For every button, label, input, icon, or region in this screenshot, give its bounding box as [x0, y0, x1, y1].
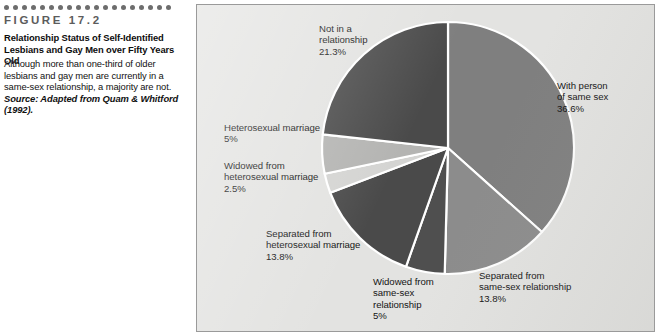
rule-dot — [85, 5, 90, 10]
chart-panel: Not in a relationship 21.3% With person … — [196, 4, 655, 332]
rule-dot — [148, 5, 153, 10]
pie-label-separated-from-same-sex-relationship: Separated from same-sex relationship 13.… — [479, 270, 571, 304]
rule-dot — [130, 5, 135, 10]
rule-dot — [49, 5, 54, 10]
pie-label-heterosexual-marriage: Heterosexual marriage 5% — [224, 122, 320, 145]
rule-dot — [13, 5, 18, 10]
figure-number: FIGURE 17.2 — [4, 14, 102, 26]
rule-dot — [76, 5, 81, 10]
rule-dot — [40, 5, 45, 10]
rule-dot — [67, 5, 72, 10]
figure-description-text: Although more than one-third of older le… — [4, 58, 171, 92]
rule-dot — [112, 5, 117, 10]
rule-dot — [31, 5, 36, 10]
rule-dot — [121, 5, 126, 10]
pie-label-widowed-from-heterosexual-marriage: Widowed from heterosexual marriage 2.5% — [224, 160, 318, 194]
rule-dot — [22, 5, 27, 10]
rule-dot — [58, 5, 63, 10]
pie-label-separated-from-heterosexual-marriage: Separated from heterosexual marriage 13.… — [266, 228, 360, 262]
rule-dot — [157, 5, 162, 10]
decorative-dot-rule — [4, 4, 190, 10]
figure-page: FIGURE 17.2 Relationship Status of Self-… — [0, 0, 667, 336]
rule-dot — [4, 5, 9, 10]
figure-description-block: Although more than one-third of older le… — [4, 58, 188, 116]
rule-dot — [139, 5, 144, 10]
caption-column: FIGURE 17.2 Relationship Status of Self-… — [0, 0, 192, 336]
figure-source-citation: Source: Adapted from Quam & Whitford (19… — [4, 93, 188, 116]
pie-label-widowed-from-same-sex-relationship: Widowed from same-sex relationship 5% — [373, 276, 434, 322]
pie-label-not-in-a-relationship: Not in a relationship 21.3% — [319, 23, 367, 57]
rule-dot — [166, 5, 171, 10]
pie-label-with-person-of-same-sex: With person of same sex 36.6% — [557, 80, 608, 114]
rule-dot — [94, 5, 99, 10]
rule-dot — [103, 5, 108, 10]
